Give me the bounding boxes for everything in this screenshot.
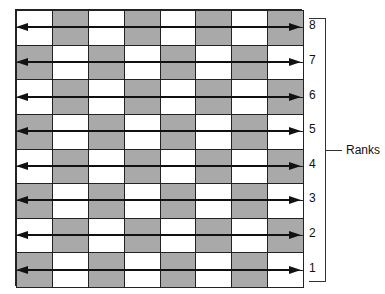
square: [195, 200, 232, 218]
square: [88, 97, 125, 115]
square: [231, 97, 268, 115]
square: [124, 235, 161, 253]
square: [124, 97, 161, 115]
square: [124, 131, 161, 149]
rank-3: [16, 183, 301, 218]
square: [52, 200, 89, 218]
square: [231, 235, 268, 253]
square: [124, 62, 161, 80]
square: [195, 62, 232, 80]
square: [88, 235, 125, 253]
square: [195, 131, 232, 149]
square: [52, 97, 89, 115]
square: [88, 27, 125, 45]
square: [195, 27, 232, 45]
square: [231, 270, 268, 288]
ranks-bracket: [309, 18, 326, 282]
rank-4: [16, 149, 301, 184]
ranks-label: Ranks: [346, 143, 380, 157]
square: [160, 235, 197, 253]
square: [231, 131, 268, 149]
square: [160, 200, 197, 218]
square: [160, 166, 197, 184]
square: [88, 166, 125, 184]
square: [231, 62, 268, 80]
rank-8: [16, 10, 301, 45]
square: [52, 131, 89, 149]
square: [231, 27, 268, 45]
square: [160, 62, 197, 80]
bracket-tick: [326, 150, 342, 151]
square: [231, 166, 268, 184]
square: [160, 27, 197, 45]
rank-7: [16, 45, 301, 80]
square: [52, 235, 89, 253]
square: [88, 62, 125, 80]
rank-1: [16, 252, 301, 287]
square: [124, 200, 161, 218]
square: [231, 200, 268, 218]
chessboard: [15, 9, 302, 286]
square: [195, 235, 232, 253]
square: [52, 27, 89, 45]
square: [195, 270, 232, 288]
square: [160, 270, 197, 288]
square: [160, 131, 197, 149]
square: [195, 97, 232, 115]
square: [52, 166, 89, 184]
square: [124, 27, 161, 45]
rank-6: [16, 79, 301, 114]
square: [124, 270, 161, 288]
square: [88, 200, 125, 218]
square: [52, 62, 89, 80]
square: [195, 166, 232, 184]
square: [124, 166, 161, 184]
square: [52, 270, 89, 288]
rank-2: [16, 218, 301, 253]
rank-5: [16, 114, 301, 149]
square: [88, 131, 125, 149]
square: [160, 97, 197, 115]
square: [88, 270, 125, 288]
